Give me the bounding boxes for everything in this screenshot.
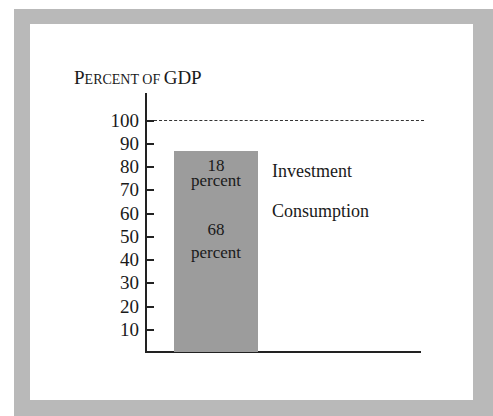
tick-60 <box>146 213 154 215</box>
tick-label-10: 10 <box>99 320 139 339</box>
investment-unit-label: percent <box>174 172 258 189</box>
tick-label-40: 40 <box>99 250 139 269</box>
tick-30 <box>146 282 154 284</box>
tick-label-60: 60 <box>99 204 139 223</box>
tick-70 <box>146 189 154 191</box>
tick-label-20: 20 <box>99 297 139 316</box>
tick-label-90: 90 <box>99 134 139 153</box>
reference-line-100 <box>154 120 424 121</box>
title-smallcaps: ERCENT OF <box>85 72 164 87</box>
tick-40 <box>146 259 154 261</box>
title-initial: P <box>74 67 85 88</box>
tick-100 <box>146 120 154 122</box>
tick-label-30: 30 <box>99 273 139 292</box>
tick-label-80: 80 <box>99 157 139 176</box>
consumption-value-label: 68 <box>174 221 258 238</box>
title-gdp: GDP <box>164 67 202 88</box>
tick-50 <box>146 236 154 238</box>
tick-20 <box>146 306 154 308</box>
tick-label-70: 70 <box>99 180 139 199</box>
consumption-unit-label: percent <box>174 244 258 261</box>
investment-series-label: Investment <box>272 161 352 182</box>
consumption-series-label: Consumption <box>272 201 369 222</box>
y-axis <box>145 93 147 353</box>
chart-title: PERCENT OF GDP <box>74 67 202 89</box>
tick-10 <box>146 329 154 331</box>
tick-label-100: 100 <box>99 111 139 130</box>
tick-label-50: 50 <box>99 227 139 246</box>
tick-80 <box>146 166 154 168</box>
tick-90 <box>146 143 154 145</box>
